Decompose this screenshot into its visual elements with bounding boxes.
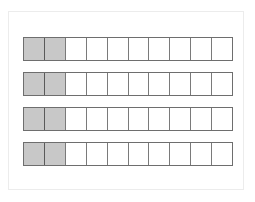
fraction-bar-4 xyxy=(23,142,233,166)
unshaded-cell xyxy=(65,38,86,60)
unshaded-cell xyxy=(128,143,149,165)
shaded-cell xyxy=(24,143,44,165)
unshaded-cell xyxy=(128,73,149,95)
fraction-bar-2 xyxy=(23,72,233,96)
unshaded-cell xyxy=(148,108,169,130)
unshaded-cell xyxy=(107,38,128,60)
unshaded-cell xyxy=(169,73,190,95)
unshaded-cell xyxy=(190,108,211,130)
fraction-bar-1 xyxy=(23,37,233,61)
shaded-cell xyxy=(44,73,65,95)
unshaded-cell xyxy=(211,73,232,95)
unshaded-cell xyxy=(169,38,190,60)
unshaded-cell xyxy=(169,108,190,130)
unshaded-cell xyxy=(190,38,211,60)
unshaded-cell xyxy=(65,143,86,165)
unshaded-cell xyxy=(86,108,107,130)
unshaded-cell xyxy=(211,143,232,165)
unshaded-cell xyxy=(128,38,149,60)
unshaded-cell xyxy=(65,108,86,130)
unshaded-cell xyxy=(211,108,232,130)
unshaded-cell xyxy=(86,38,107,60)
unshaded-cell xyxy=(148,73,169,95)
unshaded-cell xyxy=(86,143,107,165)
unshaded-cell xyxy=(148,38,169,60)
unshaded-cell xyxy=(107,108,128,130)
unshaded-cell xyxy=(148,143,169,165)
unshaded-cell xyxy=(211,38,232,60)
shaded-cell xyxy=(24,73,44,95)
shaded-cell xyxy=(44,143,65,165)
shaded-cell xyxy=(44,38,65,60)
shaded-cell xyxy=(44,108,65,130)
unshaded-cell xyxy=(107,73,128,95)
unshaded-cell xyxy=(190,143,211,165)
shaded-cell xyxy=(24,38,44,60)
unshaded-cell xyxy=(190,73,211,95)
unshaded-cell xyxy=(107,143,128,165)
unshaded-cell xyxy=(169,143,190,165)
unshaded-cell xyxy=(128,108,149,130)
fraction-bar-3 xyxy=(23,107,233,131)
unshaded-cell xyxy=(65,73,86,95)
unshaded-cell xyxy=(86,73,107,95)
shaded-cell xyxy=(24,108,44,130)
